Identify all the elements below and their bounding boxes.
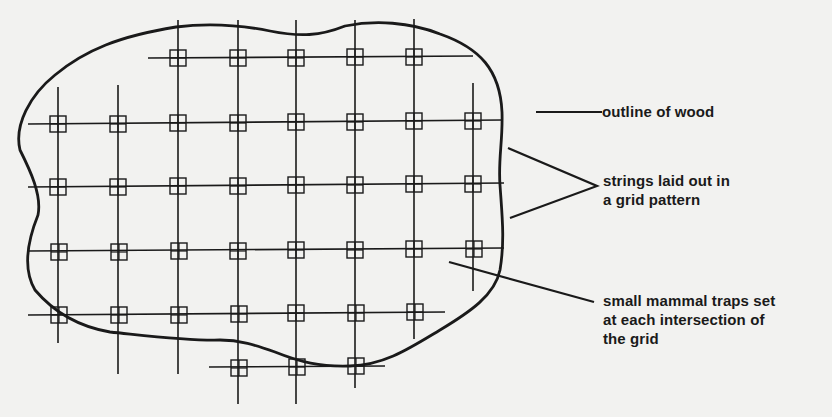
label-traps-line2: at each intersection of xyxy=(603,311,765,329)
label-traps-line3: the grid xyxy=(603,330,659,348)
label-outline-of-wood: outline of wood xyxy=(602,103,714,121)
label-strings-line2: a grid pattern xyxy=(603,191,700,209)
diagram-canvas: outline of wood strings laid out in a gr… xyxy=(0,0,832,417)
trap-cross-hairs xyxy=(50,49,482,376)
label-traps-line1: small mammal traps set xyxy=(603,292,775,310)
wood-grid-diagram xyxy=(0,0,832,417)
trap-markers xyxy=(50,49,482,376)
string-grid xyxy=(28,19,504,404)
label-strings-line1: strings laid out in xyxy=(603,172,730,190)
leader-lines xyxy=(449,112,602,302)
